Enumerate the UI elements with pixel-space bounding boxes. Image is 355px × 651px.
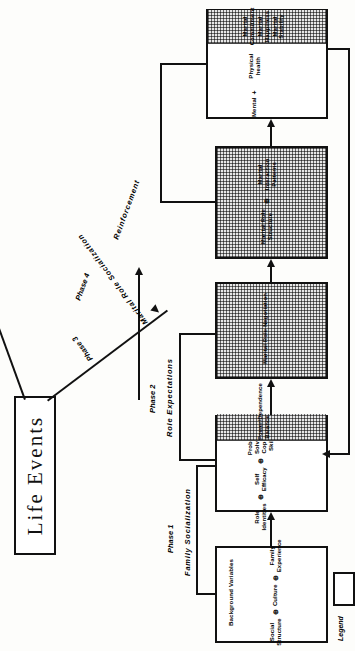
arrowhead-background-to-individual (267, 512, 275, 520)
marital-role-structure-box: Marital Role Structure ⊕ Marital Interac… (215, 146, 328, 259)
diagram-canvas: Life Events Background Variables Social … (0, 0, 355, 651)
health-item-0: Mental (251, 97, 258, 117)
structure-operator: ⊕ (263, 197, 271, 203)
bracket-phase2-left (179, 459, 216, 461)
background-variables-title: Background Variables (227, 544, 234, 641)
bracket-phase1-top (196, 465, 198, 595)
background-operator-0: ⊕ (272, 609, 280, 615)
health-operator: + (251, 90, 259, 94)
arrowhead-individual-to-negotiation (267, 379, 275, 387)
connector-structure-to-outcomes (270, 127, 272, 146)
life-events-box: Life Events (14, 396, 56, 555)
process-4-label: Reinforcement (112, 178, 142, 240)
legend-label: Legend (337, 616, 344, 641)
arrowhead-feedback-loop (322, 451, 330, 459)
connector-background-to-individual (270, 520, 272, 546)
life-events-label: Life Events (23, 416, 48, 535)
bracket-phase2-top (179, 333, 181, 461)
marital-outcome-1: Marital Happiness (257, 10, 271, 43)
marital-outcome-0: Marital Commitment (242, 8, 256, 46)
feedback-loop-horizontal (348, 48, 350, 455)
phase-4-label: Phase 4 (73, 272, 91, 302)
feedback-loop-vertical-end (330, 453, 350, 455)
background-item-1: Culture (272, 584, 279, 606)
bracket-phase2-right (179, 333, 216, 335)
background-variables-box: Background Variables Social Structure ⊕ … (215, 546, 328, 643)
marital-outcome-items: Marital Commitment Marital Happiness Mar… (242, 10, 285, 43)
marital-outcome-2: Marital Stability (272, 10, 286, 43)
health-item-1: Physical health (248, 45, 262, 87)
background-item-0: Social Structure (269, 618, 283, 646)
individual-items: Role Identities ⊕ Self Efficacy ⊕ Proble… (247, 442, 275, 510)
legend-box (333, 572, 355, 606)
individual-operator-1: ⊕ (257, 458, 265, 464)
process-2-label: Role Expectations (165, 358, 174, 437)
connector-life-events-straight (138, 275, 140, 400)
structure-items: Marital Role Structure ⊕ Marital Interac… (257, 144, 278, 257)
power-dependence-label: Power/Dependence Balance (257, 414, 271, 440)
arrowhead-negotiation-to-structure (267, 259, 275, 267)
bracket-phase4-top (160, 63, 162, 203)
phase-1-label: Phase 1 (166, 525, 175, 553)
phase-3-label: Phase 3 (70, 335, 94, 363)
individual-item-1: Self Efficacy (254, 467, 268, 491)
diagram-stage: Life Events Background Variables Social … (0, 0, 355, 651)
arrowhead-life-events-straight (135, 267, 143, 275)
arrowhead-structure-to-outcomes (267, 119, 275, 127)
connector-life-events-phase4 (0, 155, 26, 400)
bracket-phase1-right (196, 465, 216, 467)
connector-individual-to-negotiation (270, 387, 272, 415)
health-items: Mental + Physical health (248, 45, 262, 117)
marital-role-negotiation-label: Marital Role Negotiation (262, 280, 269, 377)
power-dependence-shaded-panel: Power/Dependence Balance (217, 414, 326, 441)
background-operator-1: ⊕ (272, 575, 280, 581)
structure-item-0: Marital Role Structure (260, 207, 274, 247)
bracket-phase1-left (196, 593, 216, 595)
bracket-phase4-right (160, 63, 206, 65)
marital-outcomes-shaded-panel: Marital Commitment Marital Happiness Mar… (208, 10, 326, 44)
connector-negotiation-to-structure (270, 267, 272, 282)
marital-role-negotiation-box: Marital Role Negotiation (215, 282, 328, 379)
structure-item-1: Marital Interaction Patterns (257, 154, 278, 194)
phase-2-label: Phase 2 (148, 385, 157, 413)
individual-operator-0: ⊕ (257, 494, 265, 500)
feedback-loop-vertical-start (328, 48, 350, 50)
background-variables-items: Social Structure ⊕ Culture ⊕ Family Expe… (269, 544, 283, 641)
process-1-label: Family Socialization (183, 488, 192, 576)
bracket-phase4-left (160, 201, 216, 203)
individual-resources-box: Role Identities ⊕ Self Efficacy ⊕ Proble… (215, 415, 328, 512)
marital-outcomes-box: Mental + Physical health Marital Commitm… (206, 9, 328, 119)
